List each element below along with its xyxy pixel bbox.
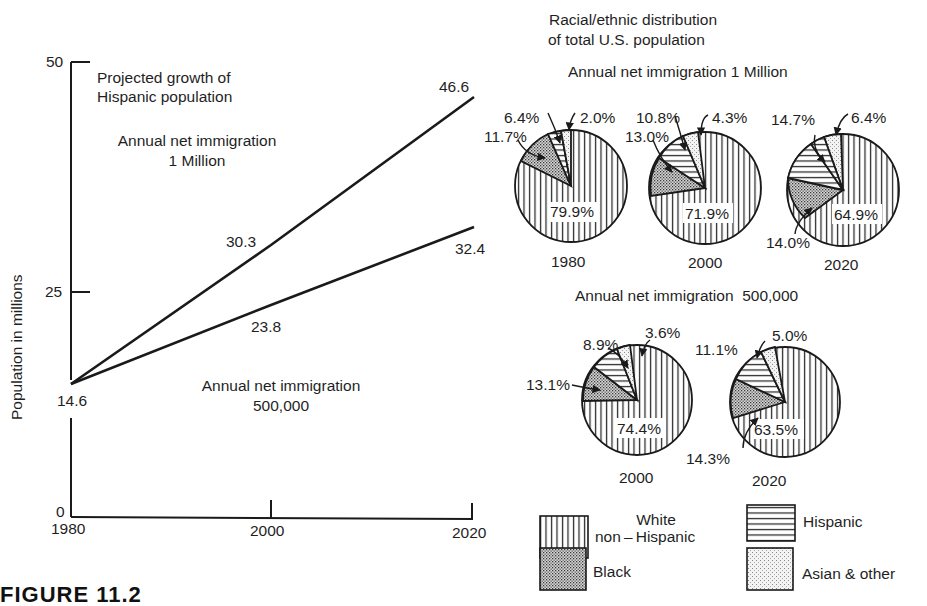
legend-label-black: Black [593,563,631,581]
y-axis-label: Population in millions [8,274,26,420]
low-series-label-line2: 500,000 [180,397,382,415]
ytick-25: 25 [45,283,62,301]
pie-2020-500k-white-value: 63.5% [754,421,798,439]
pie-2000-500k-black-value: 13.1% [526,376,570,394]
point-label-start: 14.6 [57,392,87,410]
high-series-label-line1: Annual net immigration [96,132,298,150]
pie-2000-1m-black-value: 13.0% [625,128,669,146]
pie-2020-1m [787,134,899,246]
pie-1980-year: 1980 [551,253,585,271]
pie-2000-1m-white-value: 71.9% [685,205,729,223]
pie-2000-500k-asian-value: 3.6% [645,324,680,342]
pie-2020-500k-asian-value: 5.0% [772,327,807,345]
pie-2020-1m-asian-value: 6.4% [851,109,886,127]
point-label-low-2020: 32.4 [455,240,485,258]
pie-2000-500k-white-value: 74.4% [617,420,661,438]
pie-1980-black-value: 11.7% [484,128,527,146]
legend-label-white-line2: non – Hispanic [595,528,695,546]
legend-swatch-hispanic [747,505,795,541]
xtick-2000: 2000 [250,522,284,540]
pie-2000-1m [649,132,761,244]
pie-2020-1m-year: 2020 [824,256,858,274]
xtick-1980: 1980 [51,520,85,538]
ytick-0: 0 [56,503,65,521]
figure-caption: FIGURE 11.2 [0,582,142,606]
pie-2020-1m-hispanic-value: 14.7% [771,111,815,129]
pie-group1-heading: Annual net immigration 1 Million [568,63,788,81]
pie-section-title-line1: Racial/ethnic distribution [549,11,717,29]
pie-1980-hispanic-value: 6.4% [504,109,539,127]
high-series-label-line2: 1 Million [96,152,298,170]
pie-2000-1m-year: 2000 [688,254,722,272]
legend-label-asian: Asian & other [802,565,895,583]
legend-swatch-asian [747,548,793,590]
pie-2000-1m-asian-value: 4.3% [712,109,747,127]
pie-2020-500k-year: 2020 [752,472,786,490]
pie-2000-1m-hispanic-value: 10.8% [636,109,680,127]
line-chart-title-line2: Hispanic population [97,88,232,106]
line-chart-axes [71,62,473,519]
pie-1980-asian-value: 2.0% [580,109,615,127]
legend-label-white-line1: White [611,511,701,529]
pie-1980-white-value: 79.9% [550,203,594,221]
point-label-high-2000: 30.3 [226,233,256,251]
pie-2020-1m-black-value: 14.0% [766,234,810,252]
low-series-label-line1: Annual net immigration [180,377,382,395]
pie-2000-500k [582,345,692,455]
ytick-50: 50 [46,53,63,71]
point-label-low-2000: 23.8 [251,318,281,336]
line-series-500000 [71,227,474,384]
pie-group2-heading: Annual net immigration 500,000 [575,287,798,305]
pie-2000-500k-year: 2000 [619,469,653,487]
line-chart-title-line1: Projected growth of [97,69,231,87]
pie-2020-500k-hispanic-value: 11.1% [695,341,738,359]
legend-label-hispanic: Hispanic [803,513,862,531]
pie-2020-500k-black-value: 14.3% [686,450,730,468]
legend-swatch-black [540,548,586,590]
pie-2020-1m-white-value: 64.9% [834,206,878,224]
pie-section-title-line2: of total U.S. population [548,31,705,49]
xtick-2020: 2020 [452,524,486,542]
point-label-high-2020: 46.6 [439,78,469,96]
pie-1980 [515,130,627,242]
pie-2000-500k-hispanic-value: 8.9% [583,336,618,354]
pie-2020-500k [730,347,840,457]
